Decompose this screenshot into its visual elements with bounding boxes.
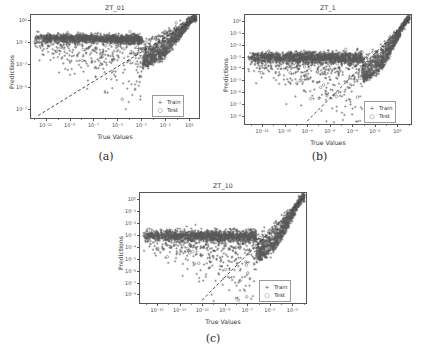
y-tick-mark bbox=[242, 33, 244, 34]
x-tick-label: 10¹ bbox=[185, 122, 193, 128]
legend-item-test[interactable]: ○Test bbox=[368, 112, 392, 120]
legend-marker-test-icon: ○ bbox=[263, 291, 271, 299]
x-tick-mark bbox=[397, 125, 398, 127]
x-tick-label: 10⁻¹³ bbox=[173, 307, 186, 313]
y-tick-label: 10⁰ bbox=[233, 18, 241, 24]
x-tick-label: 10⁻⁷ bbox=[242, 307, 253, 313]
legend-item-test[interactable]: ○Test bbox=[263, 291, 287, 299]
y-tick-mark bbox=[242, 116, 244, 117]
x-minor-tick-mark bbox=[58, 119, 59, 120]
y-axis-label-c: Predictions bbox=[117, 236, 124, 270]
legend-marker-test-icon: ○ bbox=[156, 106, 164, 114]
x-minor-tick-mark bbox=[281, 304, 282, 305]
y-tick-label: 10⁻³ bbox=[16, 61, 27, 67]
legend: +Train○Test bbox=[152, 95, 184, 117]
subplot-panel-c: ZT_10 Predictions True Values 10⁻¹⁵10⁻¹³… bbox=[107, 176, 319, 356]
plot-title-c: ZT_10 bbox=[139, 182, 307, 189]
y-tick-label: 10⁻⁵ bbox=[230, 77, 241, 83]
subplot-caption-a: (a) bbox=[0, 150, 212, 163]
y-tick-mark bbox=[28, 87, 30, 88]
legend: +Train○Test bbox=[259, 280, 291, 302]
y-tick-mark bbox=[242, 104, 244, 105]
y-tick-label: 10⁻⁴ bbox=[230, 65, 241, 71]
y-tick-mark bbox=[242, 68, 244, 69]
x-tick-mark bbox=[117, 119, 118, 121]
x-tick-mark bbox=[225, 304, 226, 306]
legend-item-train[interactable]: +Train bbox=[156, 98, 180, 106]
legend-label-test: Test bbox=[379, 112, 390, 120]
y-tick-label: 10⁻⁶ bbox=[230, 89, 241, 95]
x-tick-label: 10⁻¹¹ bbox=[196, 307, 209, 313]
y-tick-label: 10⁻³ bbox=[125, 232, 136, 238]
x-minor-tick-mark bbox=[304, 304, 305, 305]
y-tick-label: 10⁻⁷ bbox=[230, 101, 241, 107]
y-tick-mark bbox=[242, 80, 244, 81]
x-axis-label-a: True Values bbox=[30, 133, 200, 140]
y-axis-label-a: Predictions bbox=[8, 55, 15, 89]
x-tick-mark bbox=[180, 304, 181, 306]
x-tick-label: 10⁻² bbox=[369, 128, 380, 134]
x-tick-mark bbox=[262, 125, 263, 127]
y-tick-mark bbox=[28, 42, 30, 43]
y-tick-mark bbox=[137, 247, 139, 248]
legend-label-test: Test bbox=[274, 291, 285, 299]
plot-title-b: ZT_1 bbox=[244, 4, 412, 11]
y-tick-label: 10⁰ bbox=[128, 196, 136, 202]
y-tick-mark bbox=[137, 259, 139, 260]
x-minor-tick-mark bbox=[168, 304, 169, 305]
x-tick-mark bbox=[189, 119, 190, 121]
x-minor-tick-mark bbox=[259, 304, 260, 305]
x-tick-label: 10⁻⁴ bbox=[347, 128, 358, 134]
x-tick-mark bbox=[270, 304, 271, 306]
x-tick-label: 10⁰ bbox=[393, 128, 401, 134]
y-tick-mark bbox=[137, 283, 139, 284]
x-tick-mark bbox=[157, 304, 158, 306]
y-tick-mark bbox=[137, 235, 139, 236]
y-tick-label: 10⁻² bbox=[230, 42, 241, 48]
y-tick-label: 10⁻⁸ bbox=[125, 291, 136, 297]
x-minor-tick-mark bbox=[129, 119, 130, 120]
x-minor-tick-mark bbox=[364, 125, 365, 126]
x-tick-mark bbox=[285, 125, 286, 127]
x-tick-label: 10⁻³ bbox=[136, 122, 147, 128]
y-tick-label: 10⁻⁷ bbox=[16, 106, 27, 112]
legend-marker-train-icon: + bbox=[263, 283, 271, 291]
x-tick-label: 10⁻¹⁵ bbox=[151, 307, 164, 313]
y-tick-mark bbox=[137, 223, 139, 224]
y-tick-label: 10⁻⁵ bbox=[125, 256, 136, 262]
x-tick-label: 10⁻¹² bbox=[256, 128, 269, 134]
y-tick-label: 10¹ bbox=[19, 17, 27, 23]
x-minor-tick-mark bbox=[213, 304, 214, 305]
legend-item-train[interactable]: +Train bbox=[368, 104, 392, 112]
y-tick-mark bbox=[242, 21, 244, 22]
x-tick-label: 10⁻⁹ bbox=[219, 307, 230, 313]
subplot-caption-b: (b) bbox=[214, 150, 425, 163]
x-axis-label-b: True Values bbox=[244, 139, 412, 146]
x-minor-tick-mark bbox=[153, 119, 154, 120]
subplot-panel-a: ZT_01 Predictions True Values 10⁻¹¹10⁻⁹1… bbox=[0, 0, 212, 175]
legend-label-train: Train bbox=[379, 104, 392, 112]
legend: +Train○Test bbox=[364, 101, 396, 123]
y-tick-label: 10⁻⁴ bbox=[125, 244, 136, 250]
y-tick-mark bbox=[137, 199, 139, 200]
x-tick-mark bbox=[141, 119, 142, 121]
legend-item-test[interactable]: ○Test bbox=[156, 106, 180, 114]
x-minor-tick-mark bbox=[34, 119, 35, 120]
x-tick-mark bbox=[70, 119, 71, 121]
x-minor-tick-mark bbox=[177, 119, 178, 120]
legend-label-test: Test bbox=[167, 106, 178, 114]
x-tick-label: 10⁻⁷ bbox=[88, 122, 99, 128]
y-tick-label: 10⁻¹ bbox=[230, 30, 241, 36]
x-minor-tick-mark bbox=[409, 125, 410, 126]
x-tick-mark bbox=[247, 304, 248, 306]
y-tick-mark bbox=[137, 211, 139, 212]
x-tick-mark bbox=[165, 119, 166, 121]
x-tick-label: 10⁻¹⁰ bbox=[278, 128, 291, 134]
x-tick-mark bbox=[352, 125, 353, 127]
x-minor-tick-mark bbox=[236, 304, 237, 305]
legend-item-train[interactable]: +Train bbox=[263, 283, 287, 291]
y-tick-mark bbox=[242, 57, 244, 58]
legend-marker-train-icon: + bbox=[156, 98, 164, 106]
y-tick-mark bbox=[28, 20, 30, 21]
plot-title-a: ZT_01 bbox=[30, 4, 200, 11]
